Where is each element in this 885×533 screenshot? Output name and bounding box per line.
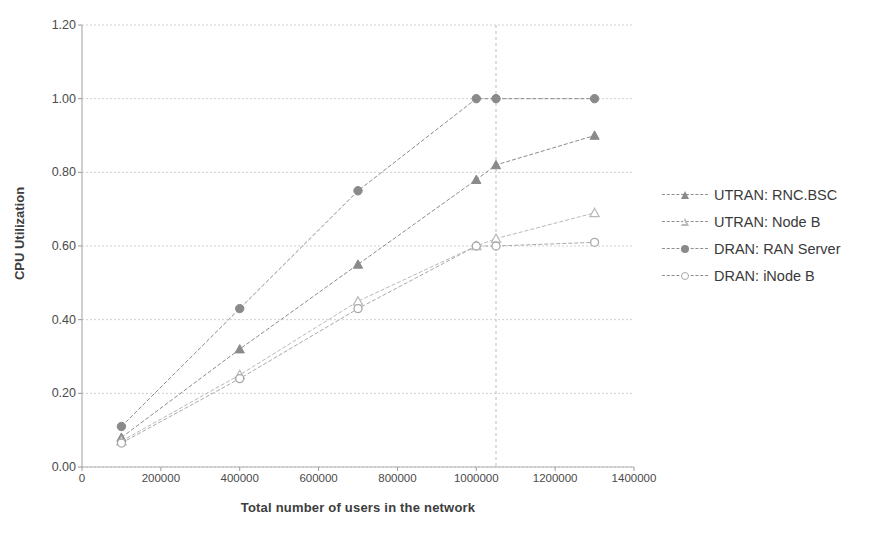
legend-item[interactable]: DRAN: iNode B	[662, 262, 877, 289]
x-tick-label: 600000	[299, 472, 337, 484]
legend-item[interactable]: UTRAN: RNC.BSC	[662, 181, 877, 208]
legend-marker-key	[662, 242, 708, 256]
data-point-marker	[117, 422, 125, 430]
data-point-marker	[590, 208, 599, 216]
data-point-marker	[236, 304, 244, 312]
data-point-marker	[591, 238, 599, 246]
triangle-open-icon	[681, 218, 689, 226]
x-tick-label: 1200000	[533, 472, 578, 484]
legend-label: DRAN: RAN Server	[714, 241, 841, 257]
legend-marker-key	[662, 269, 708, 283]
data-point-marker	[492, 242, 500, 250]
x-tick-label: 1400000	[612, 472, 657, 484]
cpu-utilization-chart: CPU Utilization 0.000.200.400.600.801.00…	[0, 0, 885, 533]
data-point-marker	[117, 439, 125, 447]
x-tick-label: 800000	[378, 472, 416, 484]
triangle-filled-icon	[681, 191, 689, 199]
data-point-marker	[492, 94, 500, 102]
legend-item[interactable]: UTRAN: Node B	[662, 208, 877, 235]
data-point-marker	[354, 305, 362, 313]
data-point-marker	[353, 260, 362, 268]
x-tick-label: 400000	[221, 472, 259, 484]
data-point-marker	[353, 297, 362, 305]
legend-label: UTRAN: Node B	[714, 214, 820, 230]
data-point-marker	[354, 187, 362, 195]
data-point-marker	[491, 160, 500, 168]
chart-legend: UTRAN: RNC.BSCUTRAN: Node BDRAN: RAN Ser…	[662, 181, 877, 289]
x-tick-label: 1000000	[454, 472, 499, 484]
data-point-marker	[472, 242, 480, 250]
x-tick-label: 0	[79, 472, 85, 484]
legend-label: DRAN: iNode B	[714, 268, 815, 284]
data-point-marker	[235, 345, 244, 353]
data-point-marker	[472, 94, 480, 102]
series-line	[121, 136, 594, 438]
data-point-marker	[472, 175, 481, 183]
series-line	[121, 213, 594, 441]
x-axis-title: Total number of users in the network	[82, 500, 634, 515]
data-point-marker	[236, 375, 244, 383]
circle-filled-icon	[681, 245, 689, 253]
legend-label: UTRAN: RNC.BSC	[714, 187, 837, 203]
legend-marker-key	[662, 215, 708, 229]
series-line	[121, 242, 594, 443]
x-tick-label: 200000	[142, 472, 180, 484]
data-point-marker	[590, 94, 598, 102]
legend-marker-key	[662, 188, 708, 202]
legend-item[interactable]: DRAN: RAN Server	[662, 235, 877, 262]
data-point-marker	[590, 131, 599, 139]
circle-open-icon	[681, 272, 689, 280]
